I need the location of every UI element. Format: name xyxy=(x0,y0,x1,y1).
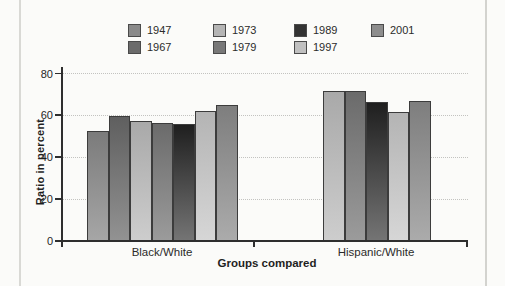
legend-item-1947: 1947 xyxy=(128,23,171,37)
y-tick-80 xyxy=(55,73,61,75)
legend-item-1967: 1967 xyxy=(128,40,171,54)
bar-group-black-white xyxy=(87,105,238,240)
legend-swatch-1973 xyxy=(213,24,226,37)
page-edge-left xyxy=(19,0,21,286)
legend-swatch-1967 xyxy=(128,41,141,54)
legend-swatch-1989 xyxy=(294,24,307,37)
legend-label: 1973 xyxy=(232,24,256,37)
bar-black-white-1967 xyxy=(109,116,131,240)
bar-black-white-1989 xyxy=(173,124,195,240)
legend-label: 1979 xyxy=(232,41,256,54)
category-label-hispanic-white: Hispanic/White xyxy=(306,246,446,258)
y-tick-40 xyxy=(55,156,61,158)
legend-label: 1967 xyxy=(147,41,171,54)
legend-label: 1997 xyxy=(313,41,337,54)
bar-hispanic-white-1979 xyxy=(345,91,367,240)
legend-swatch-1997 xyxy=(294,41,307,54)
x-tick-right xyxy=(466,242,468,247)
legend-swatch-1979 xyxy=(213,41,226,54)
y-axis-line xyxy=(61,67,63,242)
legend-swatch-2001 xyxy=(371,24,384,37)
y-axis-title: Ratio in percent xyxy=(34,119,46,205)
bar-hispanic-white-1989 xyxy=(366,102,388,240)
y-tick-label-0: 0 xyxy=(31,235,53,247)
category-label-black-white: Black/White xyxy=(92,246,232,258)
gridline-80 xyxy=(63,73,468,74)
legend-item-1997: 1997 xyxy=(294,40,337,54)
legend-label: 1947 xyxy=(147,24,171,37)
legend-item-1989: 1989 xyxy=(294,23,337,37)
bar-group-hispanic-white xyxy=(323,91,431,240)
bar-black-white-1947 xyxy=(87,131,109,240)
bar-black-white-1973 xyxy=(130,121,152,240)
bar-black-white-1997 xyxy=(195,111,217,240)
bar-hispanic-white-1997 xyxy=(388,112,410,240)
y-tick-20 xyxy=(55,198,61,200)
scanned-bar-chart: 1947 1967 1973 1979 1989 1997 2001 80 60… xyxy=(0,0,505,286)
y-tick-label-80: 80 xyxy=(31,68,53,80)
x-axis-line xyxy=(61,240,468,242)
x-tick-divider xyxy=(253,242,255,247)
legend-swatch-1947 xyxy=(128,24,141,37)
y-tick-60 xyxy=(55,114,61,116)
x-tick-left xyxy=(61,242,63,247)
legend-item-1979: 1979 xyxy=(213,40,256,54)
bar-hispanic-white-2001 xyxy=(409,101,431,240)
bar-black-white-1979 xyxy=(152,123,174,240)
bar-black-white-2001 xyxy=(216,105,238,240)
bar-hispanic-white-1973 xyxy=(323,91,345,240)
page-edge-right xyxy=(485,0,487,286)
x-axis-title: Groups compared xyxy=(187,257,347,269)
legend-label: 2001 xyxy=(390,24,414,37)
legend-item-2001: 2001 xyxy=(371,23,414,37)
legend-label: 1989 xyxy=(313,24,337,37)
legend-item-1973: 1973 xyxy=(213,23,256,37)
